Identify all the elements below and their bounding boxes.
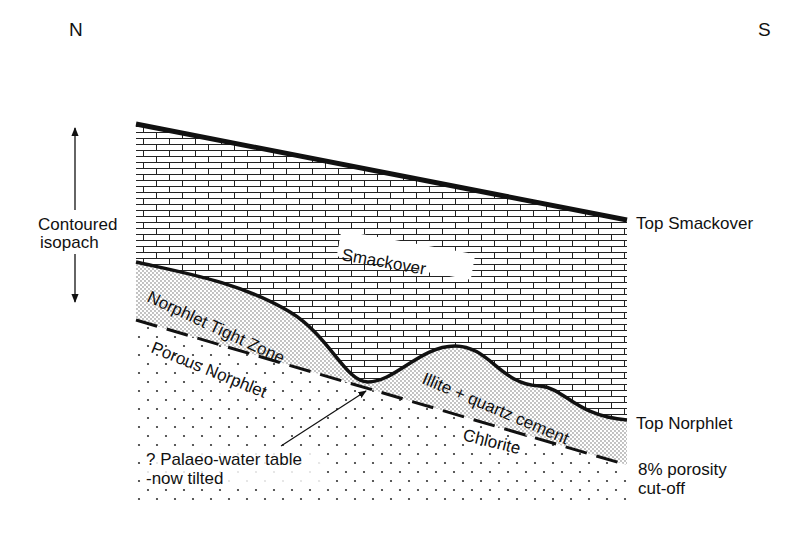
compass-north: N <box>69 19 83 40</box>
palaeo-water-table-label-line1: ? Palaeo-water table <box>146 450 302 469</box>
isopach-label-line1: Contoured <box>38 215 117 234</box>
porosity-cutoff-label-line2: cut-off <box>638 479 685 498</box>
isopach-label-line2: isopach <box>40 233 99 252</box>
porosity-cutoff-label-line1: 8% porosity <box>638 460 727 479</box>
top-norphlet-label: Top Norphlet <box>636 414 733 433</box>
top-smackover-label: Top Smackover <box>636 214 753 233</box>
cross-section-diagram: N S Contoured isopach Smackover Norphlet… <box>0 0 811 537</box>
compass-south: S <box>758 19 771 40</box>
palaeo-water-table-label-line2: -now tilted <box>146 469 223 488</box>
